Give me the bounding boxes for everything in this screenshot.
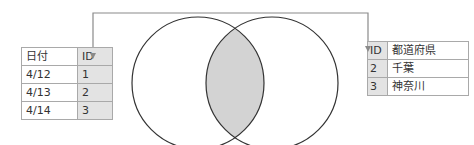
arrow-down-icon: [365, 46, 371, 52]
arrowheads: [0, 0, 474, 145]
arrow-down-icon: [90, 53, 96, 59]
